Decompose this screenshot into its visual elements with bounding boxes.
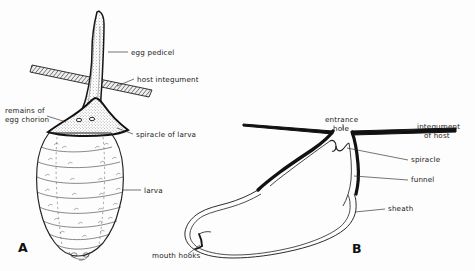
- label-funnel: funnel: [411, 175, 435, 184]
- sheath-inner-wall: [190, 194, 350, 255]
- leader-sheath: [355, 209, 385, 212]
- label-larva: larva: [144, 186, 163, 195]
- label-integument-of-host-line2: of host: [424, 131, 450, 140]
- label-integument-of-host-line1: integument: [417, 122, 460, 131]
- egg-chorion-remains: [48, 98, 128, 136]
- scientific-figure: egg pedicel host integument remains of e…: [0, 0, 475, 271]
- spiracle-notch: [330, 140, 349, 151]
- leader-egg-chorion: [47, 116, 66, 122]
- label-entrance-hole-line1: entrance: [325, 115, 359, 124]
- sheath-outer-wall: [185, 190, 356, 258]
- host-integument-left-wedge: [243, 124, 333, 134]
- label-egg-chorion-line2: egg chorion: [5, 115, 49, 124]
- figure-drawing-canvas: egg pedicel host integument remains of e…: [0, 0, 475, 271]
- larva-body: [37, 133, 124, 260]
- label-mouth-hooks: mouth hooks: [152, 251, 201, 260]
- panel-b-drawing: [185, 124, 456, 258]
- label-entrance-hole-line2: hole: [333, 124, 349, 133]
- leader-funnel: [354, 176, 408, 180]
- label-sheath: sheath: [388, 204, 413, 213]
- funnel-inner-left: [270, 141, 330, 186]
- mouth-hooks: [195, 232, 211, 249]
- panel-letter-a: A: [18, 240, 28, 255]
- label-host-integument: host integument: [137, 75, 199, 84]
- label-spiracle: spiracle: [411, 155, 441, 164]
- label-egg-pedicel: egg pedicel: [131, 48, 174, 57]
- spiracle-opening-right: [89, 117, 94, 120]
- label-egg-chorion-line1: remains of: [5, 106, 45, 115]
- entrance-hole-rim-left: [258, 131, 333, 190]
- label-spiracle-of-larva: spiracle of larva: [136, 130, 196, 139]
- entrance-hole-rim-right: [352, 132, 358, 194]
- spiracle-opening-left: [76, 118, 81, 121]
- panel-letter-b: B: [352, 241, 362, 256]
- funnel-wall: [343, 143, 351, 206]
